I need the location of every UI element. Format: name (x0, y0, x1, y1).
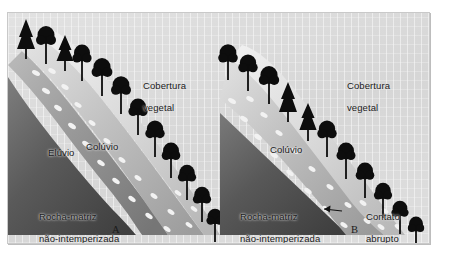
label-line-1: Cobertura (347, 80, 390, 91)
label-coluvio-b: Colúvio (270, 144, 302, 155)
label-line-1: Rocha-matriz (39, 211, 97, 222)
label-contato-abrupto-b: Contato abrupto (344, 200, 400, 244)
illustration-plate: Cobertura vegetal Elúvio Colúvio Rocha-m… (7, 12, 430, 244)
panel-letter-a: A (112, 224, 120, 235)
label-line-2: abrupto (366, 233, 399, 244)
label-line-2: vegetal (143, 102, 174, 113)
panel-letter-b: B (351, 224, 358, 235)
label-cobertura-vegetal-a: Cobertura vegetal (121, 69, 186, 124)
label-cobertura-vegetal-b: Cobertura vegetal (325, 69, 390, 124)
panel-a: Cobertura vegetal Elúvio Colúvio Rocha-m… (8, 13, 220, 243)
label-line-2: não-intemperizada (39, 233, 119, 244)
label-line-1: Rocha-matriz (240, 211, 298, 222)
label-rocha-matriz-a: Rocha-matriz não-intemperizada (17, 200, 119, 244)
label-eluvio-a: Elúvio (48, 147, 74, 158)
figure-root: Cobertura vegetal Elúvio Colúvio Rocha-m… (0, 0, 450, 259)
label-line-1: Contato (366, 211, 400, 222)
label-line-2: não-intemperizada (240, 233, 320, 244)
label-line-1: Cobertura (143, 80, 186, 91)
label-coluvio-a: Colúvio (86, 141, 118, 152)
label-rocha-matriz-b: Rocha-matriz não-intemperizada (218, 200, 320, 244)
label-line-2: vegetal (347, 102, 378, 113)
panel-b: Cobertura vegetal Colúvio Rocha-matriz n… (220, 13, 429, 243)
